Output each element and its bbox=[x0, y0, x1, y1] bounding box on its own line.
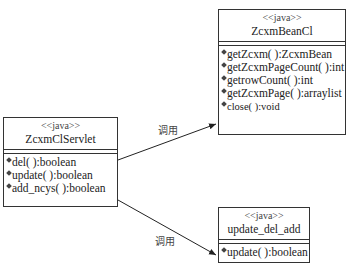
operation-icon bbox=[221, 62, 227, 68]
stereotype: <<java>> bbox=[219, 210, 309, 222]
operation: getZcxmPage( ):arraylist bbox=[222, 87, 345, 100]
relation-label-update: 调用 bbox=[155, 233, 175, 248]
stereotype: <<java>> bbox=[4, 120, 117, 132]
operation: getZcxm( ):ZcxmBean bbox=[222, 48, 345, 61]
relation-label-bean: 调用 bbox=[158, 122, 178, 137]
operation: getrowCount( ):int bbox=[222, 74, 345, 87]
operation: close( ):void bbox=[222, 100, 345, 113]
stereotype: <<java>> bbox=[219, 12, 345, 24]
operations-compartment: update( ):boolean bbox=[219, 244, 309, 262]
operation: update( ):boolean bbox=[7, 169, 117, 182]
operation-icon bbox=[6, 183, 12, 189]
operation-icon bbox=[221, 88, 227, 94]
class-header: <<java>> update_del_add bbox=[219, 208, 309, 240]
class-zcxmbeancl[interactable]: <<java>> ZcxmBeanCl getZcxm( ):ZcxmBean … bbox=[218, 9, 346, 135]
operation: del( ):boolean bbox=[7, 156, 117, 169]
operation-icon bbox=[221, 49, 227, 55]
operation: add_ncys( ):boolean bbox=[7, 182, 117, 195]
operations-compartment: del( ):boolean update( ):boolean add_ncy… bbox=[4, 154, 117, 198]
class-zcxmclservlet[interactable]: <<java>> ZcxmClServlet del( ):boolean up… bbox=[3, 117, 118, 207]
class-header: <<java>> ZcxmClServlet bbox=[4, 118, 117, 150]
operation: update( ):boolean bbox=[222, 246, 309, 259]
class-update-del-add[interactable]: <<java>> update_del_add update( ):boolea… bbox=[218, 207, 310, 263]
operation-icon bbox=[6, 157, 12, 163]
class-name: ZcxmClServlet bbox=[4, 132, 117, 146]
class-name: ZcxmBeanCl bbox=[219, 24, 345, 38]
operation-icon bbox=[221, 247, 227, 253]
class-header: <<java>> ZcxmBeanCl bbox=[219, 10, 345, 42]
operations-compartment: getZcxm( ):ZcxmBean getZcxmPageCount( ):… bbox=[219, 46, 345, 116]
class-name: update_del_add bbox=[219, 222, 309, 236]
operation-icon bbox=[221, 101, 227, 107]
operation: getZcxmPageCount( ):int bbox=[222, 61, 345, 74]
operation-icon bbox=[6, 170, 12, 176]
operation-icon bbox=[221, 75, 227, 81]
